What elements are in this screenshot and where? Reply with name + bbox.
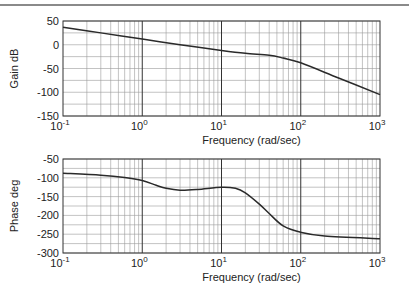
y-tick-label: -250 — [37, 228, 59, 240]
x-tick-label: 100 — [131, 255, 148, 269]
x-tick-label: 101 — [210, 118, 227, 132]
gain-xlabel: Frequency (rad/sec) — [202, 134, 300, 146]
y-tick-label: -50 — [43, 63, 59, 75]
x-tick-label: 102 — [289, 118, 306, 132]
bode-plot: 500-50-100-15010-1100101102103Frequency … — [0, 0, 409, 289]
gain-panel: 500-50-100-15010-1100101102103Frequency … — [8, 15, 386, 146]
y-tick-label: -150 — [37, 191, 59, 203]
y-tick-label: -200 — [37, 209, 59, 221]
y-tick-label: 0 — [53, 39, 59, 51]
x-tick-label: 100 — [131, 118, 148, 132]
phase-ylabel: Phase deg — [8, 180, 20, 233]
y-tick-label: -100 — [37, 172, 59, 184]
x-tick-label: 102 — [289, 255, 306, 269]
x-tick-label: 103 — [369, 255, 386, 269]
gain-ylabel: Gain dB — [8, 49, 20, 89]
y-tick-label: -50 — [43, 153, 59, 165]
x-tick-label: 101 — [210, 255, 227, 269]
x-tick-label: 10-1 — [50, 255, 70, 269]
phase-panel: -50-100-150-200-250-30010-1100101102103F… — [8, 153, 386, 283]
y-tick-label: 50 — [47, 15, 59, 27]
x-tick-label: 103 — [369, 118, 386, 132]
phase-xlabel: Frequency (rad/sec) — [202, 271, 300, 283]
x-tick-label: 10-1 — [50, 118, 70, 132]
y-tick-label: -100 — [37, 86, 59, 98]
